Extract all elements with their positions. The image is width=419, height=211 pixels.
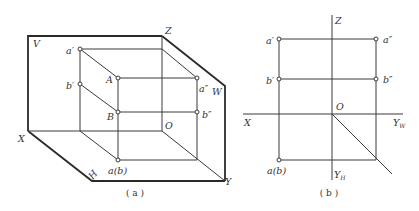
v-plane-outline [28, 36, 162, 131]
label-b-dprime: b″ [202, 109, 212, 120]
point-b-prime-b [277, 77, 281, 81]
label-B: B [106, 111, 114, 122]
label-X-b: X [243, 117, 252, 128]
label-YW: YW [393, 117, 406, 129]
caption-a: ( a ) [126, 188, 144, 198]
label-A: A [105, 74, 113, 85]
proj-x-to-ab [80, 131, 118, 160]
caption-b: ( b ) [320, 188, 339, 198]
point-ab-b [277, 158, 281, 162]
point-ab [116, 158, 120, 162]
label-W: W [212, 86, 223, 97]
label-a-dprime-b: a″ [383, 34, 393, 45]
label-Z: Z [164, 25, 172, 36]
label-Z-b: Z [334, 15, 342, 26]
point-a-prime [78, 47, 82, 51]
point-b-dprime-b [374, 77, 378, 81]
label-Y: Y [225, 176, 233, 187]
label-a-prime-b: a′ [266, 35, 275, 46]
label-a-prime: a′ [66, 45, 75, 56]
label-a-b: a(b) [108, 165, 127, 176]
label-H: H [85, 167, 100, 182]
label-b-prime: b′ [66, 80, 75, 91]
proj-top-to-adprime [162, 49, 197, 78]
label-O-b: O [336, 101, 344, 112]
label-b-prime-b: b′ [266, 75, 275, 86]
label-a-dprime: a″ [199, 83, 209, 94]
label-V: V [33, 38, 41, 49]
label-YH: YH [334, 169, 346, 181]
w-plane-outline [162, 36, 225, 181]
point-a-dprime [195, 76, 199, 80]
label-a-b-b: a(b) [267, 165, 286, 176]
y-axis-line [162, 131, 225, 181]
label-X: X [17, 133, 26, 144]
point-B [116, 110, 120, 114]
point-a-dprime-b [374, 37, 378, 41]
point-b-prime [78, 82, 82, 86]
label-O: O [165, 120, 173, 131]
label-b-dprime-b: b″ [383, 74, 393, 85]
45-degree-line [332, 114, 392, 174]
figure-a: V Z W X Y H O A B a′ b′ a″ b″ a(b) ( a ) [17, 25, 233, 198]
figure-b: Z X O YW YH a′ b′ a″ b″ a(b) ( b ) [243, 15, 406, 198]
point-a-prime-b [277, 37, 281, 41]
point-b-dprime [195, 110, 199, 114]
proj-bprime-to-B [80, 84, 118, 112]
point-A [116, 76, 120, 80]
projection-diagram: V Z W X Y H O A B a′ b′ a″ b″ a(b) ( a ) [0, 0, 419, 211]
